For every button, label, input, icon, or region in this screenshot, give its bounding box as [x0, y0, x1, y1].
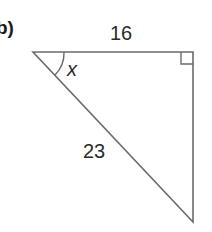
right-triangle-figure — [0, 0, 212, 232]
top-side-length: 16 — [110, 22, 132, 45]
right-angle-marker — [181, 52, 193, 64]
angle-label: x — [67, 58, 77, 81]
triangle-outline — [33, 52, 193, 222]
angle-arc — [55, 52, 64, 75]
hypotenuse-length: 23 — [83, 140, 105, 163]
